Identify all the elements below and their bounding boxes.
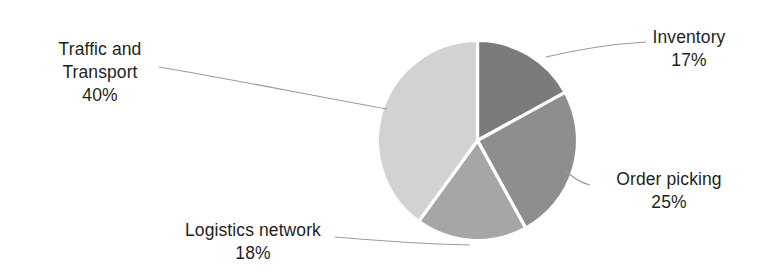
pie-label-inventory: Inventory 17% (619, 26, 759, 72)
pie-label-logistics-network-name: Logistics network (158, 219, 348, 242)
pie-label-logistics-network-value: 18% (158, 242, 348, 265)
pie-label-order-picking: Order picking 25% (583, 168, 755, 214)
pie-label-traffic-and-transport: Traffic and Transport 40% (10, 38, 190, 107)
pie-label-traffic-and-transport-value: 40% (10, 84, 190, 107)
pie-label-inventory-name: Inventory (619, 26, 759, 49)
pie-label-traffic-and-transport-name-line1: Traffic and (10, 38, 190, 61)
pie-label-traffic-and-transport-name-line2: Transport (10, 61, 190, 84)
pie-label-logistics-network: Logistics network 18% (158, 219, 348, 265)
leader-line-traffic-transport (159, 67, 387, 109)
pie-slices (378, 41, 578, 241)
pie-label-order-picking-value: 25% (583, 191, 755, 214)
pie-label-order-picking-name: Order picking (583, 168, 755, 191)
pie-label-inventory-value: 17% (619, 49, 759, 72)
pie-chart: Inventory 17% Order picking 25% Logistic… (0, 0, 761, 280)
